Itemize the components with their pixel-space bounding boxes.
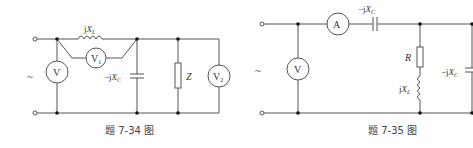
input-terminal-bottom [260, 111, 264, 115]
figure-caption: 题 7-35 图 [368, 125, 417, 136]
ammeter-label: A [333, 19, 341, 30]
voltmeter-v2-label: V2 [213, 71, 223, 83]
capacitor-label: −jXC [104, 72, 122, 83]
shunt-capacitor-label: −jXC [441, 67, 459, 78]
resistor-r [417, 47, 423, 67]
inductor-label: jXL [398, 84, 411, 95]
series-capacitor-label: −jXC [358, 4, 376, 15]
figure-7-35: ~ A −jXC V R jXL −jXC [255, 4, 473, 136]
inductor-label: jXL [83, 24, 96, 35]
ac-source-symbol: ~ [27, 70, 33, 82]
impedance-label: Z [186, 71, 192, 82]
input-terminal-bottom [33, 111, 37, 115]
input-terminal-top [260, 22, 264, 26]
figure-caption: 题 7-34 图 [105, 125, 154, 136]
voltmeter-v-label: V [53, 67, 61, 78]
resistor-label: R [404, 52, 411, 63]
inductor-jxl [418, 76, 421, 100]
voltmeter-v-label: V [294, 64, 302, 75]
figure-7-34: ~ jXL V1 V −jXC Z V2 [27, 24, 230, 136]
input-terminal-top [33, 37, 37, 41]
impedance-z [175, 63, 181, 88]
ac-source-symbol: ~ [255, 64, 261, 76]
circuit-diagrams: ~ jXL V1 V −jXC Z V2 [0, 0, 473, 148]
inductor-jxl [78, 36, 102, 39]
voltmeter-v1-label: V1 [91, 53, 101, 65]
